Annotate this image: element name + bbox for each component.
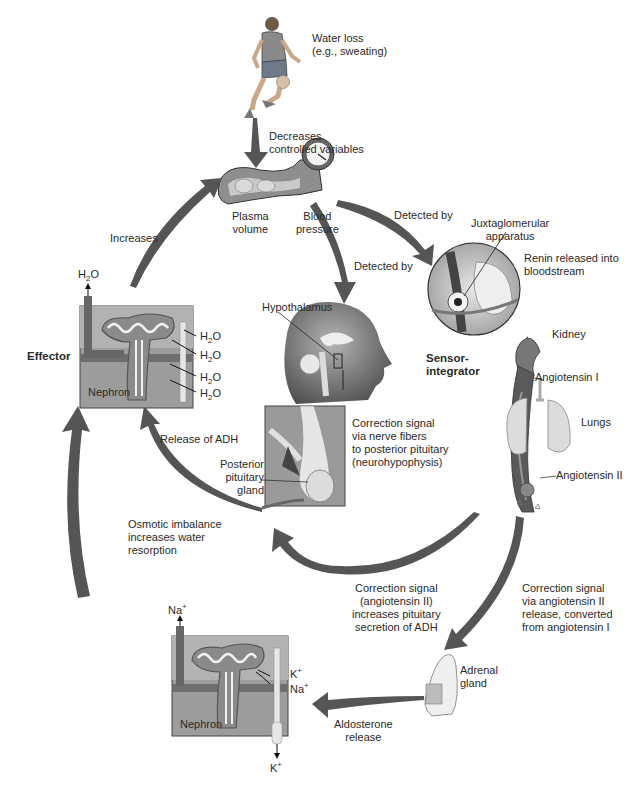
label-effector: Effector: [27, 350, 70, 363]
label-na-in: Na+: [290, 681, 309, 695]
label-angiotensin-adh: Correction signal (angiotensin II) incre…: [352, 582, 441, 634]
label-h2o-in-2: H2O: [200, 349, 221, 364]
label-aldosterone: Aldosterone release: [334, 718, 393, 744]
arrow-angiotensin-to-pituitary: [272, 512, 480, 575]
label-kidney: Kidney: [552, 328, 586, 341]
label-k-in: K+: [290, 666, 302, 680]
label-decreases: Decreases controlled variables: [269, 130, 364, 156]
label-adrenal-gland: Adrenal gland: [460, 664, 498, 690]
label-h2o-in-4: H2O: [200, 387, 221, 402]
label-water-loss: Water loss (e.g., sweating): [312, 32, 387, 58]
head-hypothalamus-icon: [278, 302, 392, 404]
adrenal-gland-icon: [425, 654, 458, 716]
diagram-artwork: [0, 0, 642, 804]
label-sensor-integrator: Sensor- integrator: [426, 352, 480, 378]
label-detected-by-right: Detected by: [394, 209, 453, 222]
arrow-aldosterone: [312, 692, 424, 718]
label-angiotensin-1: Angiotensin I: [535, 371, 599, 384]
label-release-adh: Release of ADH: [160, 433, 238, 446]
label-angiotensin-2: Angiotensin II: [556, 469, 623, 482]
label-h2o-in-1: H2O: [200, 330, 221, 345]
label-h2o-out: H2O: [78, 268, 99, 283]
label-nephron-bottom: Nephron: [180, 718, 222, 731]
label-juxtaglomerular: Juxtaglomerular apparatus: [471, 217, 549, 243]
label-lungs: Lungs: [581, 416, 611, 429]
nephron-bottom-icon: [172, 615, 288, 759]
label-nerve-signal: Correction signal via nerve fibers to po…: [352, 417, 449, 469]
arrow-decreases: [244, 118, 268, 168]
kidney-lungs-vessel-icon: [507, 336, 570, 512]
label-osmotic: Osmotic imbalance increases water resorp…: [128, 518, 222, 557]
label-blood-pressure: Blood pressure: [296, 210, 339, 236]
label-angiotensin-adrenal: Correction signal via angiotensin II rel…: [522, 582, 613, 634]
label-plasma-volume: Plasma volume: [232, 210, 269, 236]
label-detected-by-down: Detected by: [354, 260, 413, 273]
label-nephron-top: Nephron: [88, 386, 130, 399]
label-na-out: Na+: [168, 602, 187, 616]
posterior-pituitary-icon: [262, 406, 345, 508]
label-k-out: K+: [270, 760, 282, 774]
feedback-loop-diagram: Water loss (e.g., sweating) Decreases co…: [0, 0, 642, 804]
basketball-player-icon: [244, 17, 300, 118]
arrow-osmotic-imbalance: [62, 406, 90, 598]
juxtaglomerular-apparatus-icon: [428, 232, 520, 335]
label-posterior-pituitary: Posterior pituitary gland: [220, 458, 264, 497]
label-hypothalamus: Hypothalamus: [262, 301, 332, 314]
label-increases: Increases: [110, 232, 158, 245]
label-renin: Renin released into bloodstream: [524, 252, 619, 278]
label-h2o-in-3: H2O: [200, 371, 221, 386]
